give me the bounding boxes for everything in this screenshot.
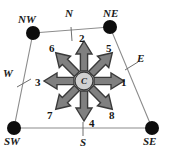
corner-label-ne: NE <box>103 8 118 19</box>
diagram-canvas: C NWNESWSE NSWE 12345678 <box>0 0 170 155</box>
direction-number-1: 1 <box>121 77 127 88</box>
cardinal-label-w: W <box>3 68 13 79</box>
corner-label-sw: SW <box>4 136 20 147</box>
direction-number-5: 5 <box>106 43 112 54</box>
direction-arrow-n[interactable] <box>76 41 92 71</box>
direction-arrow-e[interactable] <box>94 73 124 89</box>
direction-number-2: 2 <box>79 33 85 44</box>
corner-node-ne[interactable] <box>103 20 117 34</box>
corner-node-sw[interactable] <box>7 121 21 135</box>
direction-number-8: 8 <box>109 110 115 121</box>
corner-label-nw: NW <box>18 14 36 25</box>
cardinal-label-n: N <box>65 8 73 19</box>
corner-node-se[interactable] <box>145 121 159 135</box>
corner-node-nw[interactable] <box>26 26 40 40</box>
cardinal-label-e: E <box>137 53 144 64</box>
center-node-label: C <box>81 77 87 86</box>
direction-number-7: 7 <box>47 110 53 121</box>
edge-tick-n <box>71 27 72 41</box>
cardinal-label-s: S <box>80 137 86 148</box>
direction-number-4: 4 <box>89 118 95 129</box>
direction-number-3: 3 <box>35 77 41 88</box>
corner-label-se: SE <box>143 136 156 147</box>
direction-number-6: 6 <box>49 43 55 54</box>
direction-arrow-w[interactable] <box>44 73 74 89</box>
